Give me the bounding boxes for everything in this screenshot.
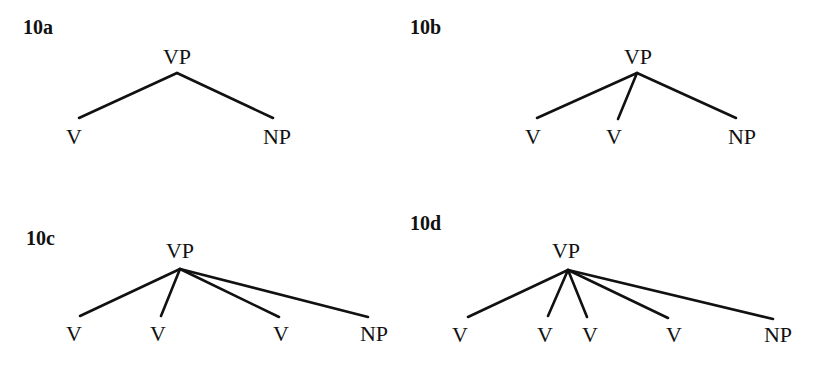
edge — [468, 270, 568, 317]
edge — [637, 73, 736, 118]
root-node: VP — [166, 240, 194, 262]
root-node: VP — [163, 46, 191, 68]
edge — [568, 270, 668, 318]
tree-label: 10c — [26, 228, 55, 248]
edge — [180, 269, 368, 317]
tree-label: 10b — [410, 17, 441, 37]
leaf-node: V — [66, 126, 82, 148]
leaf-node: V — [66, 323, 82, 345]
leaf-node: NP — [263, 126, 291, 148]
leaf-node: V — [582, 324, 598, 346]
leaf-node: V — [273, 323, 289, 345]
root-node: VP — [552, 240, 580, 262]
leaf-node: V — [606, 126, 622, 148]
edge — [568, 270, 773, 319]
edge — [79, 73, 177, 118]
tree-10b-edges — [537, 73, 736, 119]
leaf-node: NP — [728, 126, 756, 148]
edge — [180, 269, 279, 317]
leaf-node: V — [452, 324, 468, 346]
tree-label: 10a — [23, 17, 53, 37]
tree-edges — [0, 0, 815, 369]
leaf-node: V — [537, 324, 553, 346]
root-node: VP — [624, 46, 652, 68]
tree-10c-edges — [80, 269, 368, 317]
leaf-node: V — [666, 324, 682, 346]
leaf-node: V — [525, 126, 541, 148]
tree-10d-edges — [468, 270, 773, 319]
leaf-node: V — [150, 323, 166, 345]
leaf-node: NP — [360, 323, 388, 345]
tree-label: 10d — [410, 213, 441, 233]
leaf-node: NP — [764, 324, 792, 346]
tree-10a-edges — [79, 73, 273, 118]
edge — [177, 73, 273, 118]
